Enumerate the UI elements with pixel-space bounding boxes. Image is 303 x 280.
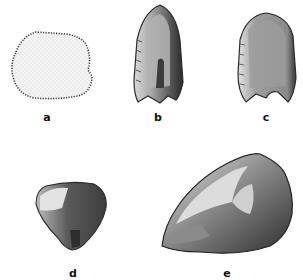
- figure-label-e: e: [223, 268, 230, 279]
- figure-label-d: d: [69, 268, 77, 279]
- figure-label-b: b: [154, 112, 162, 123]
- figure-label-c: c: [263, 112, 270, 123]
- figure-label-a: a: [43, 112, 50, 123]
